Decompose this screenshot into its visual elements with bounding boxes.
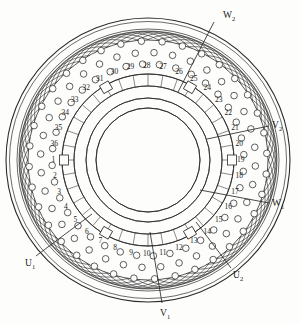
conductor-circle bbox=[101, 242, 108, 249]
conductor-circle bbox=[210, 227, 217, 234]
conductor-circle bbox=[157, 263, 164, 270]
conductor-circle bbox=[46, 114, 53, 121]
conductor-circle bbox=[216, 61, 223, 68]
conductor-circle bbox=[42, 188, 49, 195]
slot-number-4: 4 bbox=[64, 203, 68, 211]
conductor-circle bbox=[133, 252, 140, 259]
conductor-circle bbox=[91, 263, 98, 270]
conductor-circle bbox=[131, 275, 138, 282]
slot-number-30: 30 bbox=[111, 68, 119, 76]
slot-number-2: 2 bbox=[53, 172, 57, 180]
conductor-circle bbox=[26, 163, 33, 170]
slot-number-15: 15 bbox=[215, 216, 223, 224]
conductor-circle bbox=[120, 261, 127, 268]
conductor-circle bbox=[151, 49, 158, 56]
conductor-circle bbox=[210, 256, 217, 263]
conductor-circle bbox=[80, 57, 87, 64]
slot-number-10: 10 bbox=[143, 250, 151, 258]
slot-number-6: 6 bbox=[85, 228, 89, 236]
conductor-circle bbox=[261, 130, 268, 137]
conductor-circle bbox=[49, 205, 56, 212]
conductor-circle bbox=[49, 85, 56, 92]
slot-number-24: 24 bbox=[203, 84, 211, 92]
slot-number-32: 32 bbox=[83, 84, 91, 92]
conductor-circle bbox=[102, 256, 109, 263]
conductor-circle bbox=[263, 171, 270, 178]
conductor-circle bbox=[259, 191, 266, 198]
slot-number-5: 5 bbox=[73, 216, 77, 224]
conductor-circle bbox=[139, 264, 146, 271]
conductor-circle bbox=[254, 110, 261, 117]
slot-number-29: 29 bbox=[127, 63, 135, 71]
slot-number-3: 3 bbox=[57, 188, 61, 196]
slot-number-13: 13 bbox=[190, 237, 198, 245]
conductor-circle bbox=[198, 50, 205, 57]
conductor-circle bbox=[183, 245, 190, 252]
conductor-circle bbox=[193, 253, 200, 260]
terminal-label-w2: W2 bbox=[223, 11, 235, 22]
terminal-label-u2: U2 bbox=[233, 271, 243, 282]
slot-number-18: 18 bbox=[236, 172, 244, 180]
conductor-circle bbox=[241, 108, 248, 115]
slot-number-33: 33 bbox=[71, 96, 79, 104]
conductor-circle bbox=[151, 276, 158, 283]
slot-number-25: 25 bbox=[190, 75, 198, 83]
conductor-circle bbox=[179, 43, 186, 50]
slot-number-27: 27 bbox=[159, 63, 167, 71]
conductor-circle bbox=[40, 132, 47, 139]
slot-number-28: 28 bbox=[143, 62, 151, 70]
conductor-circle bbox=[132, 50, 139, 57]
slot-number-34: 34 bbox=[62, 109, 70, 117]
slot-number-20: 20 bbox=[236, 140, 244, 148]
slot-number-23: 23 bbox=[215, 96, 223, 104]
conductor-circle bbox=[231, 92, 238, 99]
terminal-label-u1: U1 bbox=[25, 259, 35, 270]
conductor-circle bbox=[38, 103, 45, 110]
conductor-circle bbox=[118, 41, 125, 48]
stator-winding-figure: W2V2W1U2V1U11234567891011121314151617181… bbox=[0, 0, 300, 324]
conductor-circle bbox=[63, 70, 70, 77]
conductor-circle bbox=[45, 222, 52, 229]
conductor-circle bbox=[55, 98, 62, 105]
conductor-circle bbox=[167, 250, 174, 257]
conductor-circle bbox=[66, 83, 73, 90]
terminal-label-w1: W1 bbox=[272, 199, 284, 210]
slot-number-21: 21 bbox=[231, 124, 239, 132]
terminal-label-v2: V2 bbox=[272, 121, 282, 132]
conductor-circle bbox=[114, 54, 121, 61]
conductor-circle bbox=[169, 52, 176, 59]
slot-number-11: 11 bbox=[159, 249, 166, 257]
conductor-circle bbox=[192, 266, 199, 273]
core-ring bbox=[96, 108, 200, 212]
conductor-circle bbox=[138, 38, 145, 45]
terminal-label-v1: V1 bbox=[160, 309, 170, 320]
conductor-circle bbox=[172, 273, 179, 280]
coil-group-tab bbox=[60, 155, 69, 165]
conductor-circle bbox=[251, 144, 258, 151]
slot-number-12: 12 bbox=[175, 244, 183, 252]
conductor-circle bbox=[249, 181, 256, 188]
slot-number-9: 9 bbox=[129, 249, 133, 257]
slot-number-35: 35 bbox=[55, 124, 63, 132]
coil-group-tab bbox=[228, 155, 237, 165]
conductor-circle bbox=[159, 39, 166, 46]
conductor-circle bbox=[35, 204, 42, 211]
conductor-circle bbox=[231, 75, 238, 82]
conductor-circle bbox=[31, 122, 38, 129]
conductor-circle bbox=[59, 221, 66, 228]
slot-number-17: 17 bbox=[231, 188, 239, 196]
slot-number-16: 16 bbox=[224, 203, 232, 211]
conductor-circle bbox=[264, 150, 271, 157]
conductor-circle bbox=[71, 235, 78, 242]
conductor-circle bbox=[244, 199, 251, 206]
conductor-circle bbox=[38, 169, 45, 176]
conductor-circle bbox=[218, 78, 225, 85]
conductor-circle bbox=[197, 237, 204, 244]
slot-number-19: 19 bbox=[237, 156, 245, 164]
conductor-circle bbox=[223, 230, 230, 237]
slot-number-8: 8 bbox=[113, 244, 117, 252]
conductor-circle bbox=[244, 92, 251, 99]
conductor-circle bbox=[117, 249, 124, 256]
conductor-circle bbox=[86, 247, 93, 254]
slot-number-26: 26 bbox=[175, 68, 183, 76]
